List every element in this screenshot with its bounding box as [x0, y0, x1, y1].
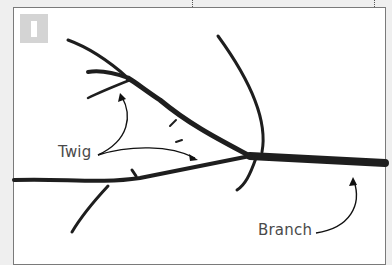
branch-illustration: [0, 0, 392, 265]
twig-label: Twig: [58, 143, 91, 161]
branch-label: Branch: [258, 221, 312, 239]
